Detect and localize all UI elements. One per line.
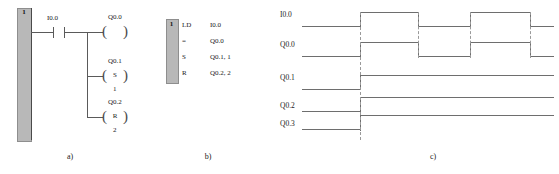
caption-c: c) bbox=[413, 152, 453, 162]
caption-b: b) bbox=[188, 152, 228, 162]
branch-wire-coil-q02 bbox=[87, 117, 103, 118]
waveform-q02-low bbox=[302, 111, 360, 112]
waveform-i00-low bbox=[302, 26, 360, 27]
branch-wire-coil-q00 bbox=[87, 32, 103, 33]
waveform-i00-low bbox=[530, 26, 554, 27]
waveform-q00-low bbox=[302, 56, 360, 57]
coil-paren-right-icon: ) bbox=[123, 68, 128, 83]
network-number: 1 bbox=[166, 20, 177, 29]
waveform-q00-low bbox=[530, 56, 554, 57]
waveform-i00-high bbox=[470, 12, 530, 13]
stl-operator: = bbox=[182, 34, 198, 49]
coil-paren-left-icon: ( bbox=[102, 24, 107, 39]
edge-marker-line bbox=[418, 12, 419, 58]
waveform-q00-high bbox=[470, 42, 530, 43]
branch-wire-coil-q01 bbox=[87, 76, 103, 77]
coil-label-q00: Q0.0 bbox=[108, 13, 122, 21]
edge-marker-line bbox=[530, 12, 531, 58]
waveform-i00-high bbox=[360, 12, 418, 13]
signal-label-q03: Q0.3 bbox=[280, 119, 295, 128]
output-coil-q00: ( ) bbox=[102, 24, 128, 40]
stl-operator: LD bbox=[182, 18, 198, 33]
reset-coil-q02: ( R ) bbox=[102, 109, 128, 125]
caption-a: a) bbox=[50, 152, 90, 162]
waveform-i00-low bbox=[418, 26, 470, 27]
stl-operator: S bbox=[182, 50, 198, 65]
waveform-q02-high bbox=[360, 97, 554, 98]
waveform-q00-low bbox=[418, 56, 470, 57]
contact-label-i00: I0.0 bbox=[47, 14, 58, 22]
edge-marker-line bbox=[360, 12, 361, 140]
waveform-q01-low bbox=[302, 89, 360, 90]
rung-wire-rail-to-contact bbox=[31, 32, 53, 33]
stl-row: S Q0.1, 1 bbox=[182, 50, 274, 65]
stl-operand: I0.0 bbox=[210, 18, 221, 33]
stl-operand: Q0.1, 1 bbox=[210, 50, 231, 65]
stl-operator: R bbox=[182, 66, 198, 81]
waveform-q03-low bbox=[302, 129, 360, 130]
branch-trunk-line bbox=[87, 32, 88, 117]
stl-row: LD I0.0 bbox=[182, 18, 274, 33]
waveform-q01-high bbox=[360, 75, 554, 76]
coil-paren-right-icon: ) bbox=[123, 24, 128, 39]
ladder-diagram-panel: 1 I0.0 Q0.0 ( ) Q0.1 ( S ) 1 Q0.2 ( R ) … bbox=[0, 0, 160, 174]
stl-operand: Q0.0 bbox=[210, 34, 224, 49]
waveform-q00-high bbox=[360, 42, 418, 43]
contact-bar-left bbox=[53, 27, 54, 38]
statement-list-panel: 1 LD I0.0 = Q0.0 S Q0.1, 1 R Q0.2, 2 b) bbox=[160, 0, 280, 174]
signal-label-q00: Q0.0 bbox=[280, 40, 295, 49]
set-coil-q01: ( S ) bbox=[102, 68, 128, 84]
rung-wire-contact-to-branch bbox=[64, 32, 87, 33]
edge-marker-line bbox=[470, 12, 471, 58]
coil-parameter-q02: 2 bbox=[113, 126, 117, 134]
signal-label-q02: Q0.2 bbox=[280, 101, 295, 110]
stl-row: R Q0.2, 2 bbox=[182, 66, 274, 81]
coil-parameter-q01: 1 bbox=[113, 85, 117, 93]
coil-label-q02: Q0.2 bbox=[108, 98, 122, 106]
stl-row: = Q0.0 bbox=[182, 34, 274, 49]
timing-diagram-panel: I0.0 Q0.0 Q0.1 Q0.2 Q0.3 c) bbox=[280, 0, 559, 174]
signal-label-i00: I0.0 bbox=[280, 10, 292, 19]
left-power-rail-block bbox=[17, 8, 32, 142]
power-rail-line bbox=[31, 8, 32, 140]
waveform-q03-high bbox=[360, 115, 554, 116]
coil-paren-right-icon: ) bbox=[123, 109, 128, 124]
signal-label-q01: Q0.1 bbox=[280, 73, 295, 82]
rung-number: 1 bbox=[18, 8, 30, 17]
coil-label-q01: Q0.1 bbox=[108, 57, 122, 65]
stl-operand: Q0.2, 2 bbox=[210, 66, 231, 81]
